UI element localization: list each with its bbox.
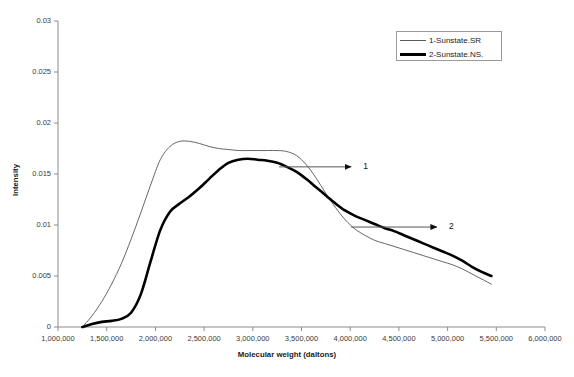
legend-entry-2: 2-Sunstate.NS. — [400, 47, 483, 61]
legend-swatch-thick-line-icon — [400, 53, 426, 56]
y-axis-tick-label: 0.025 — [0, 67, 51, 76]
chart-axes — [54, 21, 545, 331]
legend-entry-1-label: 1-Sunstate.SR — [429, 36, 481, 45]
chart-series-group — [82, 141, 491, 327]
y-axis-tick-label: 0.03 — [0, 16, 51, 25]
annotation-label-1: 1 — [363, 161, 368, 171]
y-axis-tick-label: 0 — [0, 322, 51, 331]
legend-entry-2-label: 2-Sunstate.NS. — [429, 50, 483, 59]
legend-swatch-thin-line-icon — [400, 40, 426, 41]
chart-legend: 1-Sunstate.SR 2-Sunstate.NS. — [396, 31, 502, 61]
y-axis-tick-label: 0.02 — [0, 118, 51, 127]
annotation-label-2: 2 — [449, 221, 454, 231]
x-axis-tick-label: 6,000,000 — [515, 334, 574, 343]
y-axis-ticks — [54, 21, 58, 327]
chart-line-series-1 — [82, 141, 491, 327]
y-axis-tick-label: 0.015 — [0, 169, 51, 178]
y-axis-tick-label: 0.01 — [0, 220, 51, 229]
legend-entry-1: 1-Sunstate.SR — [400, 33, 481, 47]
x-axis-ticks — [58, 327, 545, 331]
x-axis-title: Molecular weight (daltons) — [0, 350, 574, 359]
chart-line-series-2 — [82, 159, 491, 327]
chart-container: Intensity 00.0050.010.0150.020.0250.03 1… — [0, 0, 574, 377]
y-axis-tick-label: 0.005 — [0, 271, 51, 280]
